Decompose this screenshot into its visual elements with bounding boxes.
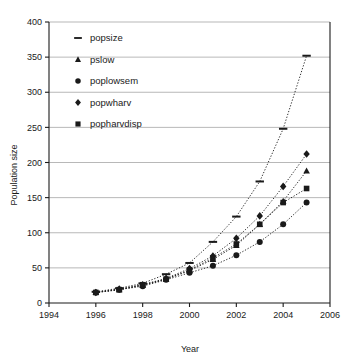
marker-square [140, 282, 146, 288]
marker-circle [257, 239, 263, 245]
x-axis-title: Year [181, 344, 199, 354]
y-axis-title: Population size [9, 144, 19, 205]
marker-square [93, 290, 99, 296]
marker-circle [210, 263, 216, 269]
y-tick-label: 0 [37, 298, 42, 308]
marker-square [187, 267, 193, 273]
marker-square [280, 200, 286, 206]
y-tick-label: 350 [27, 52, 42, 62]
x-tick-label: 1994 [39, 310, 59, 320]
marker-square [257, 222, 263, 228]
marker-square [75, 121, 80, 126]
marker-square [116, 287, 122, 293]
marker-circle [233, 252, 239, 258]
chart-background [0, 0, 351, 359]
chart-container: 050100150200250300350400 199419961998200… [0, 0, 351, 359]
x-tick-label: 1996 [86, 310, 106, 320]
x-tick-label: 1998 [133, 310, 153, 320]
marker-square [234, 241, 240, 247]
legend-label-popharvdisp: popharvdisp [90, 118, 142, 129]
legend-label-pslow: pslow [90, 54, 114, 65]
y-tick-label: 150 [27, 193, 42, 203]
marker-square [304, 186, 310, 192]
legend-label-poplowsem: poplowsem [90, 75, 138, 86]
y-tick-label: 250 [27, 123, 42, 133]
legend-label-popsize: popsize [90, 32, 123, 43]
y-tick-label: 300 [27, 87, 42, 97]
marker-circle [75, 78, 81, 84]
y-tick-label: 50 [32, 263, 42, 273]
x-tick-label: 2004 [273, 310, 293, 320]
marker-circle [280, 221, 286, 227]
marker-square [210, 255, 216, 261]
y-tick-label: 200 [27, 158, 42, 168]
x-tick-label: 2000 [179, 310, 199, 320]
x-tick-label: 2002 [226, 310, 246, 320]
marker-square [163, 276, 169, 282]
legend-label-popwharv: popwharv [90, 97, 131, 108]
y-tick-label: 400 [27, 17, 42, 27]
y-tick-label: 100 [27, 228, 42, 238]
population-size-line-chart: 050100150200250300350400 199419961998200… [0, 0, 351, 359]
x-tick-label: 2006 [320, 310, 340, 320]
marker-circle [304, 200, 310, 206]
